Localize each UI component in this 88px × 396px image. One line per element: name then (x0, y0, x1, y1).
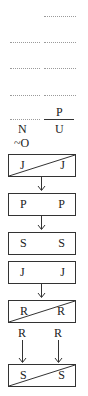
arrow-down-icon (37, 284, 46, 298)
denominator-left-label: N (18, 123, 27, 135)
between-left-label: R (18, 327, 26, 339)
blank-row-4-left (10, 95, 40, 96)
arrow-down-icon (37, 177, 46, 191)
blank-row-2-right (44, 42, 76, 43)
box-1-left-label: J (20, 159, 25, 171)
box-2-right-label: P (58, 198, 65, 210)
diagonal-line (9, 155, 75, 176)
box-4-right-label: J (60, 266, 65, 278)
arrow-down-icon (18, 340, 27, 363)
box-4-left-label: J (20, 266, 25, 278)
blank-row-3-left (10, 68, 40, 69)
diagonal-line (9, 365, 75, 386)
diagonal-line (9, 301, 75, 322)
box-2: P P (8, 193, 76, 216)
box-3-right-label: S (58, 237, 65, 249)
box-4: J J (8, 261, 76, 284)
blank-row-4-right (44, 95, 76, 96)
box-5: R R (8, 300, 76, 323)
blank-row-3-right (44, 68, 76, 69)
blank-row-2-left (10, 42, 40, 43)
tilde-o-label: ~O (14, 137, 29, 149)
box-1-right-label: J (60, 159, 65, 171)
box-6-right-label: S (58, 369, 65, 381)
fraction-left-dotted-line (10, 119, 40, 120)
between-right-label: R (54, 327, 62, 339)
box-5-right-label: R (57, 305, 65, 317)
fraction-right-line (44, 119, 74, 120)
denominator-right-label: U (55, 123, 64, 135)
numerator-right-label: P (56, 106, 63, 118)
box-3: S S (8, 232, 76, 255)
box-6: S S (8, 364, 76, 387)
box-1: J J (8, 154, 76, 177)
arrow-down-icon (54, 340, 63, 363)
blank-row-1-right (44, 16, 76, 17)
arrow-down-icon (37, 216, 46, 230)
box-5-left-label: R (20, 305, 28, 317)
box-3-left-label: S (20, 237, 27, 249)
box-6-left-label: S (20, 369, 27, 381)
box-2-left-label: P (20, 198, 27, 210)
